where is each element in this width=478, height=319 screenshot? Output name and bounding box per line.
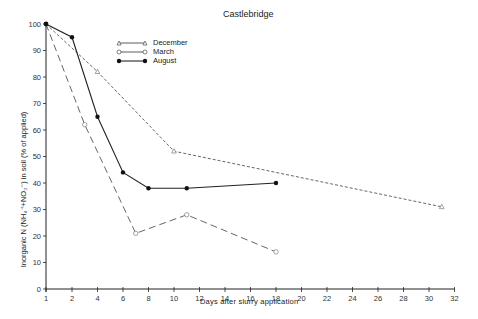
svg-text:26: 26 [374,294,382,303]
svg-text:8: 8 [146,294,150,303]
line-chart: 0102030405060708090100124681012141618202… [0,0,478,319]
svg-text:20: 20 [297,294,305,303]
svg-text:0: 0 [37,285,41,294]
legend-label: December [153,38,188,47]
svg-text:100: 100 [28,20,41,29]
svg-text:24: 24 [348,294,356,303]
legend-item-august: August [116,56,188,65]
svg-text:4: 4 [95,294,99,303]
y-axis-label: Inorganic N (NH₄⁺+NO₃⁻) in soil (% of ap… [19,100,28,280]
series-lines [44,22,444,254]
svg-text:10: 10 [170,294,178,303]
axes: 0102030405060708090100124681012141618202… [28,20,458,304]
x-axis-label: Days after slurry application [200,297,298,306]
svg-text:30: 30 [33,205,41,214]
svg-text:22: 22 [323,294,331,303]
open-circle-line-icon [116,48,148,56]
svg-text:90: 90 [33,46,41,55]
legend-label: August [153,56,176,65]
legend-item-december: December [116,38,188,47]
svg-text:50: 50 [33,152,41,161]
legend-item-march: March [116,47,188,56]
open-triangle-line-icon [116,39,148,47]
svg-text:6: 6 [121,294,125,303]
svg-text:40: 40 [33,179,41,188]
svg-text:10: 10 [33,258,41,267]
legend-label: March [153,47,174,56]
svg-text:28: 28 [399,294,407,303]
svg-text:80: 80 [33,73,41,82]
svg-text:70: 70 [33,99,41,108]
chart-title: Castlebridge [223,9,274,19]
svg-text:1: 1 [44,294,48,303]
svg-text:60: 60 [33,126,41,135]
svg-text:30: 30 [425,294,433,303]
legend: December March August [116,38,188,65]
svg-text:20: 20 [33,232,41,241]
filled-circle-line-icon [116,57,148,65]
svg-text:2: 2 [70,294,74,303]
svg-text:32: 32 [450,294,458,303]
